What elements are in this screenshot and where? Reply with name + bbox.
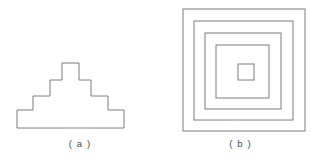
concentric-square-5: [238, 64, 254, 80]
concentric-square-4: [216, 45, 269, 98]
panel-b: ( b ): [160, 0, 321, 162]
figure-container: ( a ) ( b ): [0, 0, 321, 162]
panel-b-label: ( b ): [160, 138, 321, 149]
concentric-square-1: [183, 9, 305, 131]
panel-a: ( a ): [0, 0, 160, 162]
panel-a-label: ( a ): [0, 138, 160, 149]
concentric-square-2: [194, 21, 293, 120]
stepped-pyramid-outline: [17, 63, 124, 128]
